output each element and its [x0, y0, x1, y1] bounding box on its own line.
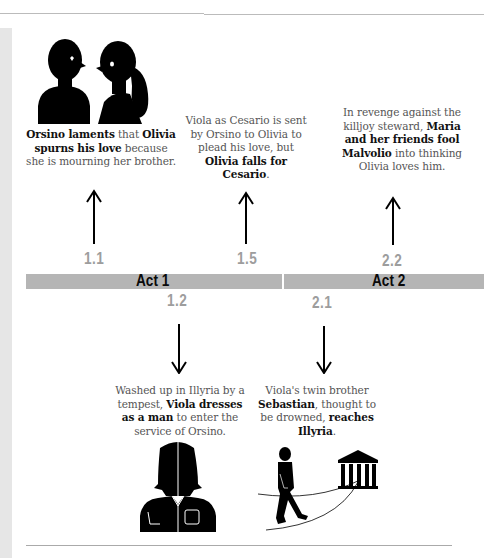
scene-2-1-caption: Viola's twin brother Sebastian, thought … — [258, 384, 376, 438]
scene-number: 2.1 — [312, 294, 332, 312]
page-margin-sidebar — [0, 28, 12, 558]
arrow-up-icon — [236, 190, 256, 246]
act-1-label: Act 1 — [136, 271, 169, 291]
top-rule-right — [204, 14, 484, 15]
viola-disguised-figure-icon — [138, 440, 218, 532]
top-rule — [0, 13, 204, 14]
scene-number: 2.2 — [382, 252, 402, 270]
arrow-down-icon — [169, 322, 189, 374]
arrow-up-icon — [84, 188, 104, 246]
scene-number: 1.5 — [237, 250, 257, 268]
scene-2-2-caption: In revenge against the killjoy steward, … — [332, 106, 472, 174]
arrow-up-icon — [383, 195, 403, 245]
bottom-rule — [26, 545, 452, 546]
scene-1-2-caption: Washed up in Illyria by a tempest, Viola… — [110, 384, 250, 438]
scene-number: 1.1 — [84, 250, 104, 268]
sebastian-walking-to-temple-icon — [256, 444, 386, 536]
act-2-label: Act 2 — [372, 271, 405, 291]
scene-1-5-caption: Viola as Cesario is sent by Orsino to Ol… — [180, 114, 312, 182]
scene-1-1-caption: Orsino laments that Olivia spurns his lo… — [26, 128, 176, 169]
arrow-down-icon — [314, 324, 334, 374]
scene-number: 1.2 — [167, 292, 187, 310]
orsino-olivia-silhouettes-icon — [34, 36, 166, 124]
